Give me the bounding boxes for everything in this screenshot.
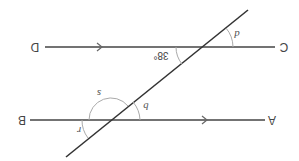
point-label-a: A — [268, 113, 276, 127]
angle-label-r: r — [76, 125, 81, 137]
point-label-c: C — [279, 40, 288, 54]
angle-label-b: b — [143, 101, 149, 113]
angle-arc-d — [226, 28, 233, 47]
angle-arc-b — [133, 102, 140, 120]
angle-label-d: d — [234, 29, 240, 41]
angle-arc-s — [89, 98, 128, 120]
angle-arc-38 — [176, 47, 182, 64]
diagram-svg: D C B A 38° d s b r — [0, 0, 299, 161]
angle-arc-r — [82, 120, 88, 138]
angle-label-s: s — [97, 88, 101, 100]
point-label-d: D — [30, 40, 39, 54]
point-label-b: B — [18, 113, 26, 127]
parallel-lines-diagram: D C B A 38° d s b r — [0, 0, 299, 161]
transversal-line — [66, 10, 248, 157]
angle-label-38: 38° — [153, 50, 168, 61]
